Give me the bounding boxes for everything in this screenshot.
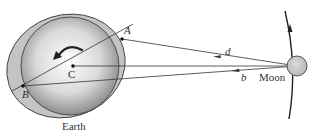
label-earth: Earth <box>62 120 86 132</box>
moon-sphere <box>287 56 307 76</box>
point-a-dot <box>120 37 124 41</box>
arrow-d-icon <box>213 55 221 58</box>
label-distance-b: b <box>241 71 247 83</box>
tidal-diagram: A B C d b Moon Earth <box>0 0 317 138</box>
label-moon: Moon <box>259 71 286 83</box>
label-point-c: C <box>68 68 75 80</box>
line-a-moon <box>122 39 297 66</box>
label-point-b: B <box>22 88 29 100</box>
label-point-a: A <box>123 24 131 36</box>
label-distance-d: d <box>225 45 231 57</box>
